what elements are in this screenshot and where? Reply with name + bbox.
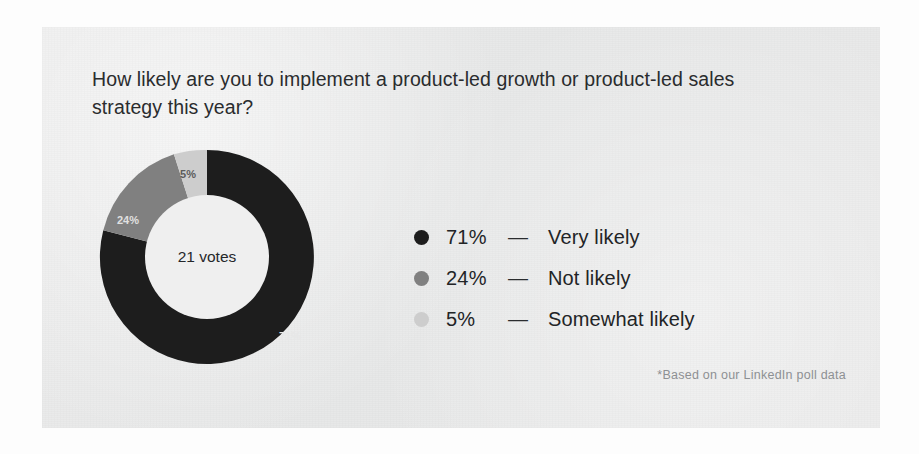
donut-center-label: 21 votes (178, 248, 237, 265)
legend-dot-not-likely (414, 271, 429, 286)
donut-chart: 21 votes 71% 24% 5% (96, 146, 318, 368)
legend-item-somewhat-likely[interactable]: 5% — Somewhat likely (414, 299, 834, 340)
legend-dash-somewhat-likely: — (508, 308, 548, 331)
legend-dash-very-likely: — (508, 226, 548, 249)
legend-dot-somewhat-likely (414, 312, 429, 327)
chart-legend: 71% — Very likely 24% — Not likely 5% — … (414, 217, 834, 340)
legend-percent-very-likely: 71% (446, 226, 508, 249)
legend-item-not-likely[interactable]: 24% — Not likely (414, 258, 834, 299)
legend-item-very-likely[interactable]: 71% — Very likely (414, 217, 834, 258)
poll-result-card: How likely are you to implement a produc… (42, 27, 880, 428)
legend-label-very-likely: Very likely (548, 226, 640, 249)
legend-dash-not-likely: — (508, 267, 548, 290)
source-footnote: *Based on our LinkedIn poll data (657, 368, 846, 382)
donut-label-very-likely: 71% (279, 330, 301, 342)
donut-chart-svg: 21 votes 71% 24% 5% (96, 146, 318, 368)
legend-label-not-likely: Not likely (548, 267, 631, 290)
donut-label-not-likely: 24% (117, 214, 139, 226)
donut-label-somewhat-likely: 5% (180, 168, 196, 180)
legend-label-somewhat-likely: Somewhat likely (548, 308, 695, 331)
legend-percent-not-likely: 24% (446, 267, 508, 290)
legend-percent-somewhat-likely: 5% (446, 308, 508, 331)
screenshot-canvas: How likely are you to implement a produc… (0, 0, 919, 454)
page-title: How likely are you to implement a produc… (92, 66, 792, 121)
legend-dot-very-likely (414, 230, 429, 245)
